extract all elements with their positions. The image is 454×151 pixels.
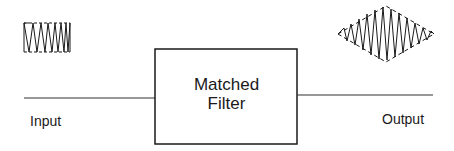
input-label: Input (30, 113, 61, 129)
block-label-line1: Matched (155, 75, 298, 94)
output-waveform-icon (338, 6, 434, 62)
input-waveform-icon (24, 23, 70, 52)
output-label: Output (382, 111, 424, 127)
block-label: Matched Filter (155, 75, 298, 113)
block-label-line2: Filter (155, 94, 298, 113)
